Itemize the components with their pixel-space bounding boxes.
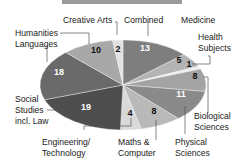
label-languages: Languages [15,39,58,49]
label-physical-1: Physical [175,137,207,147]
value-engineering: 4 [127,108,132,118]
value-humanities: 10 [91,45,101,55]
label-engineering-2: Technology [42,148,86,158]
value-social: 19 [81,102,91,112]
label-maths-2: Computer [118,148,156,158]
label-biological-2: Sciences [194,122,229,132]
value-combined: 13 [140,43,150,53]
pie-slices [40,40,206,130]
value-languages: 18 [54,67,64,77]
value-physical: 11 [176,89,186,99]
label-engineering-1: Engineering/ [42,137,91,147]
label-social-2: Studies [15,105,44,115]
label-humanities: Humanities [15,28,58,38]
label-biological-1: Biological [194,111,231,121]
label-maths-1: Maths & [118,137,150,147]
value-creative-arts: 2 [115,44,120,54]
label-medicine: Medicine [181,15,216,25]
value-health: 1 [186,59,191,69]
label-combined: Combined [124,15,163,25]
label-social-3: incl. Law [15,116,49,126]
value-maths: 8 [151,106,156,116]
label-physical-2: Sciences [175,148,210,158]
pie-chart: 13 5 1 8 11 8 4 19 18 10 2 Creative Arts… [0,0,247,168]
label-health-1: Health [198,32,223,42]
value-biological: 8 [192,71,197,81]
label-creative-arts: Creative Arts [63,15,112,25]
label-social-1: Social [15,94,38,104]
value-medicine: 5 [176,55,181,65]
label-health-2: Subjects [198,43,231,53]
